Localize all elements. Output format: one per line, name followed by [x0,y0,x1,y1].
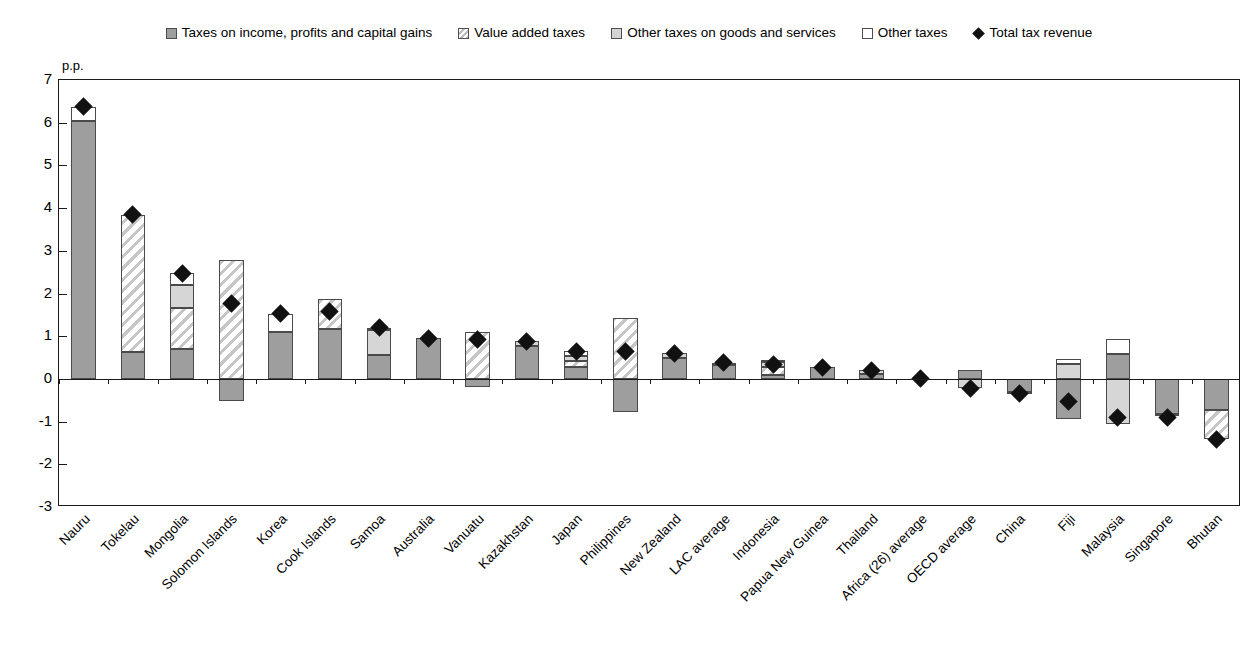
goods-segment [170,285,195,308]
y-tick-mark [59,208,67,209]
zero-baseline [59,379,1239,380]
legend-label-other: Other taxes [878,26,948,40]
legend-item-total: Total tax revenue [974,26,1093,40]
income-segment [958,370,983,379]
y-tick-label: 6 [18,114,52,129]
y-axis-unit-label: p.p. [62,58,84,73]
other-segment [1106,339,1131,354]
income-segment [268,332,293,379]
income-segment [1204,379,1229,410]
y-axis-labels: 76543210-1-2-3 [6,79,52,506]
y-tick-label: 7 [18,71,52,86]
bars-layer [59,80,1239,505]
income-segment [1106,354,1131,379]
other-segment [1056,359,1081,364]
bar-group[interactable] [810,80,835,505]
bar-group[interactable] [170,80,195,505]
bar-group[interactable] [909,80,934,505]
square-hatched-swatch-icon [458,28,469,39]
y-tick-label: 5 [18,156,52,171]
income-segment [71,121,96,379]
bar-group[interactable] [761,80,786,505]
vat-segment [564,361,589,367]
y-tick-mark [59,464,67,465]
bar-group[interactable] [958,80,983,505]
bar-group[interactable] [1106,80,1131,505]
vat-segment [219,260,244,379]
diamond-marker-icon [972,27,985,40]
income-segment [613,379,638,412]
bar-group[interactable] [268,80,293,505]
legend-item-income: Taxes on income, profits and capital gai… [166,26,433,40]
square-lightgray-swatch-icon [611,28,622,39]
bar-group[interactable] [416,80,441,505]
y-tick-mark [59,165,67,166]
bar-group[interactable] [712,80,737,505]
bar-group[interactable] [859,80,884,505]
legend-label-goods: Other taxes on goods and services [627,26,836,40]
legend-label-income: Taxes on income, profits and capital gai… [182,26,433,40]
bar-group[interactable] [367,80,392,505]
y-tick-label: 4 [18,199,52,214]
income-segment [170,349,195,379]
income-segment [219,379,244,401]
bar-group[interactable] [1056,80,1081,505]
y-tick-mark [59,422,67,423]
bar-group[interactable] [515,80,540,505]
goods-segment [1056,364,1081,379]
y-tick-label: 1 [18,327,52,342]
square-gray-swatch-icon [166,28,177,39]
bar-group[interactable] [662,80,687,505]
bar-group[interactable] [564,80,589,505]
income-segment [367,355,392,379]
y-tick-mark [59,336,67,337]
y-tick-label: 0 [18,370,52,385]
y-tick-label: -1 [18,413,52,428]
bar-group[interactable] [1007,80,1032,505]
income-segment [121,352,146,378]
x-axis-labels: NauruTokelauMongoliaSolomon IslandsKorea… [0,506,1258,656]
income-segment [515,346,540,378]
y-tick-mark [59,294,67,295]
y-tick-label: 2 [18,285,52,300]
y-tick-mark [59,123,67,124]
bar-group[interactable] [121,80,146,505]
y-tick-label: -2 [18,455,52,470]
bar-group[interactable] [71,80,96,505]
tax-revenue-chart: Taxes on income, profits and capital gai… [0,0,1258,660]
legend-item-other: Other taxes [862,26,948,40]
income-segment [318,329,343,379]
legend-item-goods: Other taxes on goods and services [611,26,836,40]
legend-label-total: Total tax revenue [990,26,1093,40]
square-white-swatch-icon [862,28,873,39]
bar-group[interactable] [318,80,343,505]
legend-label-vat: Value added taxes [474,26,585,40]
bar-group[interactable] [1155,80,1180,505]
y-tick-mark [59,251,67,252]
income-segment [465,379,490,387]
legend-item-vat: Value added taxes [458,26,585,40]
vat-segment [121,215,146,352]
income-segment [564,367,589,379]
chart-legend: Taxes on income, profits and capital gai… [0,26,1258,40]
vat-segment [170,308,195,349]
bar-group[interactable] [219,80,244,505]
bar-group[interactable] [465,80,490,505]
bar-group[interactable] [613,80,638,505]
plot-area [58,79,1240,506]
y-tick-label: 3 [18,242,52,257]
